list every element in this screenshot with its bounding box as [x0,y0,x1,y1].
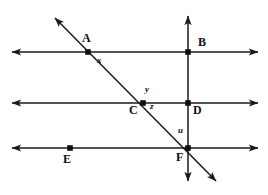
point-label-A: A [82,32,91,44]
point-dots-group [67,49,191,151]
transversal-through-A-C-F [55,18,216,181]
point-label-B: B [198,36,206,48]
point-label-C: C [129,104,138,116]
angle-label-x: x [97,56,102,65]
point-label-F: F [176,151,183,163]
point-dot-B [185,49,191,55]
point-label-D: D [193,104,202,116]
point-dot-C [140,100,146,106]
angle-label-z: z [150,102,154,111]
angle-label-u: u [178,126,183,135]
point-dot-F [185,145,191,151]
angle-label-y: y [145,85,149,94]
transversal-lines-group [55,18,216,181]
point-dot-D [185,100,191,106]
geometry-canvas [0,0,268,195]
geometry-figure: A B C D E F x y z u [0,0,268,195]
point-label-E: E [63,153,71,165]
point-dot-A [85,49,91,55]
point-dot-E [67,145,73,151]
